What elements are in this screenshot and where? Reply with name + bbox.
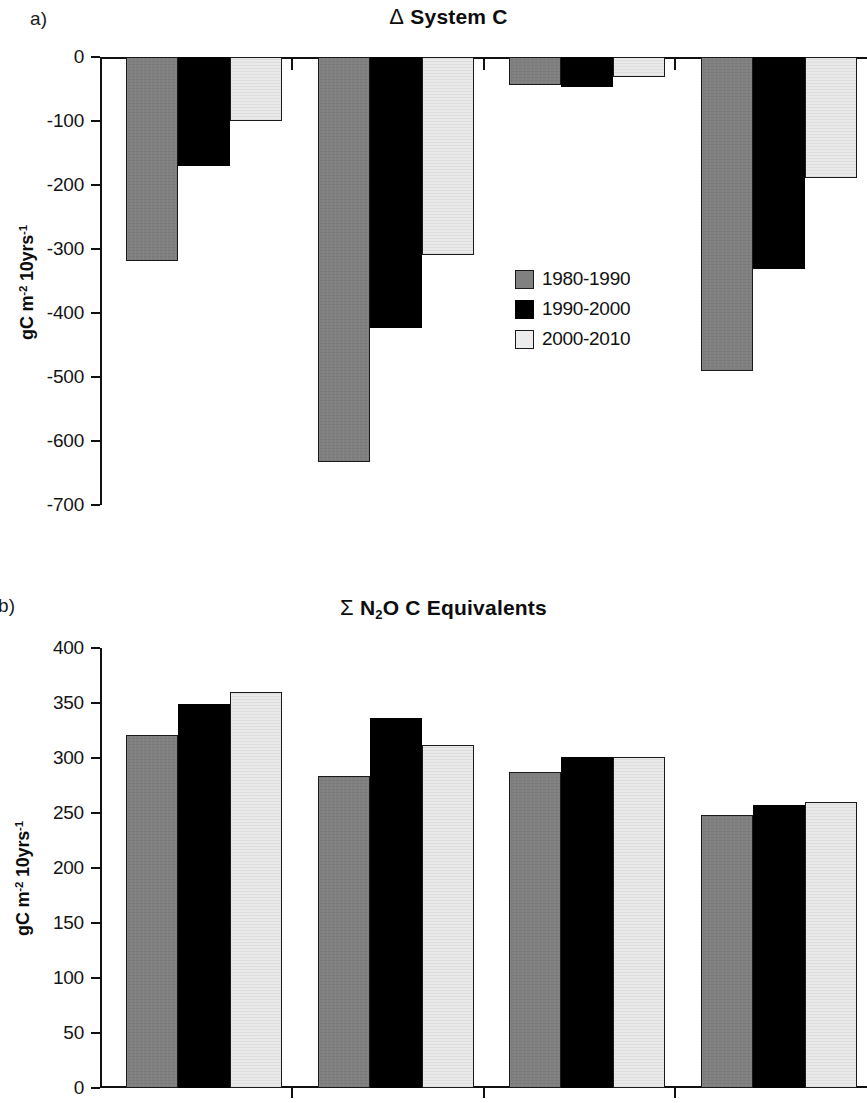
y-axis-tick [91, 376, 100, 378]
bar [701, 57, 753, 371]
y-axis-tick [91, 812, 100, 814]
panel-b-y-axis-label: gC m-2 10yrs-1 [13, 804, 34, 954]
y-unit-sup2-a: -1 [17, 225, 29, 235]
panel-a-y-axis [100, 57, 102, 505]
bar [613, 757, 665, 1088]
bar [805, 802, 857, 1088]
legend-item: 1980-1990 [515, 268, 630, 290]
y-axis-tick-label: 350 [53, 692, 84, 714]
bar [509, 57, 561, 85]
panel-b-title: Σ N2O C Equivalents [0, 595, 867, 622]
y-axis-tick [91, 867, 100, 869]
bar [805, 57, 857, 178]
y-axis-tick [91, 922, 100, 924]
legend-item: 2000-2010 [515, 328, 630, 350]
bar [318, 57, 370, 462]
y-axis-tick-label: 50 [63, 1022, 84, 1044]
panel-b-title-text: N2O C Equivalents [360, 596, 547, 619]
x-axis-tick [674, 1087, 676, 1098]
legend: 1980-1990 1990-2000 2000-2010 [515, 268, 630, 350]
legend-label-2000-2010: 2000-2010 [542, 328, 630, 350]
x-axis-tick [291, 1087, 293, 1098]
bar [701, 815, 753, 1088]
y-axis-tick [91, 757, 100, 759]
bar [370, 718, 422, 1088]
bar [126, 735, 178, 1088]
bar [126, 57, 178, 261]
bar [422, 57, 474, 255]
legend-label-1990-2000: 1990-2000 [542, 298, 630, 320]
panel-a: a) Δ System C gC m-2 10yrs-1 0-100-200-3… [0, 0, 867, 560]
y-axis-tick-label: 0 [74, 1077, 84, 1099]
y-axis-tick-label: -500 [47, 366, 84, 388]
y-axis-tick-label: 150 [53, 912, 84, 934]
y-axis-tick-label: 100 [53, 967, 84, 989]
y-axis-tick [91, 184, 100, 186]
y-axis-tick [91, 702, 100, 704]
y-axis-tick [91, 977, 100, 979]
y-axis-tick [91, 248, 100, 250]
x-axis-tick [483, 59, 485, 70]
y-axis-tick-label: 400 [53, 637, 84, 659]
panel-b: b) Σ N2O C Equivalents gC m-2 10yrs-1 40… [0, 590, 867, 1103]
sigma-symbol: Σ [340, 595, 354, 620]
panel-a-y-axis-label: gC m-2 10yrs-1 [17, 208, 38, 358]
x-axis-tick [291, 59, 293, 70]
y-axis-tick-label: 250 [53, 802, 84, 824]
delta-symbol: Δ [389, 4, 404, 29]
legend-item: 1990-2000 [515, 298, 630, 320]
bar [613, 57, 665, 77]
panel-b-y-axis [100, 648, 102, 1088]
y-axis-tick-label: 0 [74, 46, 84, 68]
bar [178, 704, 230, 1088]
x-axis-tick [674, 59, 676, 70]
y-axis-tick-label: -300 [47, 238, 84, 260]
bar [370, 57, 422, 328]
y-unit-mid-b: 10yrs [13, 831, 33, 882]
figure-root: a) Δ System C gC m-2 10yrs-1 0-100-200-3… [0, 0, 867, 1103]
legend-label-1980-1990: 1980-1990 [542, 268, 630, 290]
y-unit-mid-a: 10yrs [17, 235, 37, 286]
y-axis-tick [91, 1087, 100, 1089]
bar [178, 57, 230, 166]
bar [753, 57, 805, 269]
bar [318, 776, 370, 1088]
y-axis-tick [91, 647, 100, 649]
bar [561, 757, 613, 1088]
panel-a-title: Δ System C [0, 4, 867, 30]
y-unit-main-a: gC m [17, 296, 37, 340]
panel-b-plot-area: 400350300250200150100500 [100, 648, 867, 1088]
y-axis-tick-label: -600 [47, 430, 84, 452]
y-unit-sup1-b: -2 [13, 882, 25, 892]
y-axis-tick [91, 504, 100, 506]
y-axis-tick-label: 300 [53, 747, 84, 769]
legend-swatch-2000-2010 [515, 330, 534, 349]
bar [422, 745, 474, 1088]
y-axis-tick-label: -200 [47, 174, 84, 196]
y-unit-sup1-a: -2 [17, 286, 29, 296]
y-axis-tick [91, 56, 100, 58]
y-axis-tick-label: -700 [47, 494, 84, 516]
y-axis-tick-label: -100 [47, 110, 84, 132]
y-axis-tick-label: -400 [47, 302, 84, 324]
legend-swatch-1980-1990 [515, 270, 534, 289]
panel-a-title-text: System C [410, 5, 507, 28]
bar [561, 57, 613, 87]
y-unit-sup2-b: -1 [13, 821, 25, 831]
bar [230, 692, 282, 1088]
x-axis-tick [483, 1087, 485, 1098]
y-unit-main-b: gC m [13, 892, 33, 936]
y-axis-tick [91, 312, 100, 314]
y-axis-tick [91, 440, 100, 442]
bar [753, 805, 805, 1088]
panel-a-plot-area: 0-100-200-300-400-500-600-700 [100, 57, 867, 505]
y-axis-tick [91, 1032, 100, 1034]
bar [509, 772, 561, 1088]
y-axis-tick-label: 200 [53, 857, 84, 879]
bar [230, 57, 282, 121]
y-axis-tick [91, 120, 100, 122]
legend-swatch-1990-2000 [515, 300, 534, 319]
